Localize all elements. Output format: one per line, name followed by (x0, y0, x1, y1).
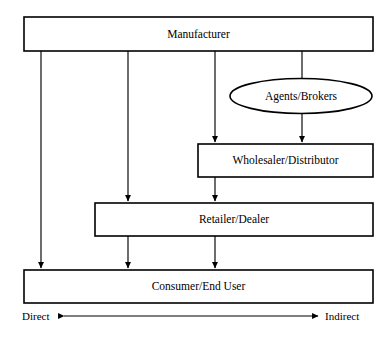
node-consumer-end-user-label: Consumer/End User (152, 280, 246, 292)
diagram-canvas: Manufacturer Agents/Brokers Wholesaler/D… (0, 0, 391, 337)
node-manufacturer-label: Manufacturer (167, 28, 230, 40)
direct-indirect-axis: Direct Indirect (22, 310, 359, 322)
node-retailer-dealer-label: Retailer/Dealer (199, 213, 269, 225)
node-agents-brokers[interactable]: Agents/Brokers (230, 79, 372, 114)
distribution-channel-diagram: Manufacturer Agents/Brokers Wholesaler/D… (0, 0, 391, 337)
node-consumer-end-user[interactable]: Consumer/End User (24, 270, 373, 303)
axis-label-indirect: Indirect (325, 310, 359, 322)
node-manufacturer[interactable]: Manufacturer (24, 17, 373, 51)
node-agents-brokers-label: Agents/Brokers (265, 90, 338, 103)
node-wholesaler-distributor-label: Wholesaler/Distributor (232, 154, 338, 166)
node-wholesaler-distributor[interactable]: Wholesaler/Distributor (198, 144, 373, 177)
node-retailer-dealer[interactable]: Retailer/Dealer (95, 203, 373, 236)
axis-label-direct: Direct (22, 310, 49, 322)
